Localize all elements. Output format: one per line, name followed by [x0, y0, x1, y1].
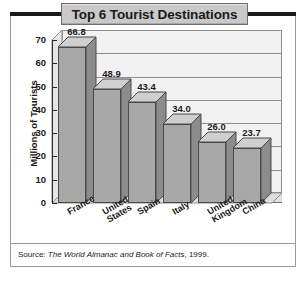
bar-value-label: 34.0 — [160, 103, 204, 114]
y-axis-tick-label: 70 — [24, 34, 46, 45]
bar-value-label: 43.4 — [125, 81, 169, 92]
y-axis-tick-label: 10 — [24, 174, 46, 185]
y-axis-line — [52, 40, 53, 203]
y-axis-tick-label: 30 — [24, 127, 46, 138]
bar-column — [163, 124, 191, 203]
frame-top-rule-left — [10, 12, 62, 16]
y-axis-title: Millions of Tourists — [28, 54, 39, 194]
y-axis-tick-label: 0 — [24, 197, 46, 208]
bar-3d-faces — [58, 37, 98, 205]
y-axis-tick-label: 50 — [24, 81, 46, 92]
source-prefix: Source: — [18, 250, 46, 259]
bar-column — [128, 102, 156, 203]
y-axis-tick-label: 60 — [24, 57, 46, 68]
bar-3d-faces — [93, 79, 133, 205]
bar-column — [93, 89, 121, 203]
chart-title-plaque: Top 6 Tourist Destinations — [61, 3, 248, 25]
y-axis-tick-label: 40 — [24, 104, 46, 115]
source-note: Source: The World Almanac and Book of Fa… — [18, 250, 209, 259]
frame-top-rule-right — [247, 12, 296, 16]
y-axis-tick-label: 20 — [24, 150, 46, 161]
bar-column — [198, 142, 226, 203]
plot-area: 66.848.943.434.026.023.7 — [52, 30, 292, 210]
bar-value-label: 66.8 — [55, 26, 99, 37]
figure-chart-top-6-tourist-destinations: Top 6 Tourist Destinations Millions of T… — [0, 0, 308, 282]
y-axis-tick — [52, 203, 57, 204]
source-divider — [11, 243, 295, 244]
source-publication: The World Almanac and Book of Facts — [48, 250, 185, 259]
source-year: , 1999. — [184, 250, 208, 259]
bar-value-label: 48.9 — [90, 68, 134, 79]
bar-column — [58, 47, 86, 203]
bar-value-label: 23.7 — [230, 127, 274, 138]
page-title: Top 6 Tourist Destinations — [72, 7, 238, 22]
